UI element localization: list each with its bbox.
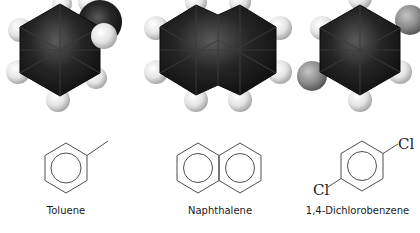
- naphthalene-structure: [140, 130, 285, 205]
- toluene-structure: [0, 130, 140, 205]
- naphthalene-space-filling-model: [140, 0, 285, 110]
- toluene-label: Toluene: [26, 205, 106, 216]
- toluene-space-filling-model: [0, 0, 140, 110]
- dichlorobenzene-label: 1,4-Dichlorobenzene: [295, 205, 420, 216]
- dichlorobenzene-panel: Cl Cl 1,4-Dichlorobenzene: [285, 0, 415, 233]
- dichlorobenzene-structure: Cl Cl: [285, 120, 415, 205]
- toluene-panel: Toluene: [0, 0, 140, 233]
- dichlorobenzene-space-filling-model: [285, 0, 415, 110]
- chlorine-label-bottom: Cl: [313, 181, 329, 199]
- chlorine-label-top: Cl: [398, 135, 414, 153]
- naphthalene-label: Naphthalene: [175, 205, 265, 216]
- naphthalene-panel: Naphthalene: [140, 0, 285, 233]
